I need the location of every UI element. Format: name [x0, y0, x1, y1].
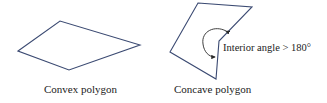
concave-polygon: [170, 3, 252, 79]
convex-polygon: [18, 21, 140, 70]
convex-figure: Convex polygon: [18, 21, 140, 95]
interior-angle-annotation: Interior angle > 180°: [223, 42, 311, 53]
convex-polygon-caption: Convex polygon: [44, 83, 118, 95]
concave-polygon-caption: Concave polygon: [174, 83, 252, 95]
concave-figure: Interior angle > 180° Concave polygon: [170, 3, 311, 95]
polygon-diagram: Convex polygon Interior angle > 180° Con…: [0, 0, 327, 103]
